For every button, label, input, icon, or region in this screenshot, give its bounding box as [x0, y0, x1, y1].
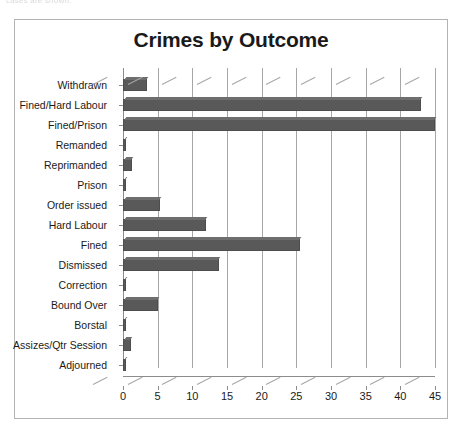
- y-tick: [119, 125, 123, 126]
- x-tick-0: [123, 386, 124, 390]
- x-tick-label-20: 20: [256, 390, 268, 402]
- bar-row: [123, 176, 435, 196]
- x-tick-15: [227, 386, 228, 390]
- y-tick: [119, 345, 123, 346]
- bar[interactable]: [123, 119, 435, 131]
- chart-title: Crimes by Outcome: [15, 28, 447, 52]
- category-label: Dismissed: [0, 259, 107, 271]
- bar-row: [123, 296, 435, 316]
- bar-row: [123, 116, 435, 136]
- category-label: Fined: [0, 239, 107, 251]
- category-label: Fined/Hard Labour: [0, 99, 107, 111]
- category-label: Correction: [0, 279, 107, 291]
- axis-depth-line: [197, 377, 212, 385]
- bar[interactable]: [123, 359, 126, 371]
- y-tick: [119, 145, 123, 146]
- category-label: Reprimanded: [0, 159, 107, 171]
- bar-row: [123, 256, 435, 276]
- y-tick: [119, 265, 123, 266]
- bar-row: [123, 336, 435, 356]
- bar-row: [123, 136, 435, 156]
- y-tick: [119, 365, 123, 366]
- bar[interactable]: [123, 99, 421, 111]
- x-tick-45: [435, 386, 436, 390]
- category-label: Hard Labour: [0, 219, 107, 231]
- y-tick: [119, 325, 123, 326]
- bar[interactable]: [123, 259, 219, 271]
- category-label: Fined/Prison: [0, 119, 107, 131]
- bar-row: [123, 196, 435, 216]
- gridline-45: [435, 68, 436, 368]
- bar-row: [123, 356, 435, 376]
- x-tick-40: [400, 386, 401, 390]
- bar[interactable]: [123, 179, 126, 191]
- bar-row: [123, 316, 435, 336]
- y-tick: [119, 185, 123, 186]
- x-tick-label-10: 10: [186, 390, 198, 402]
- bar-row: [123, 276, 435, 296]
- axis-depth-line: [301, 377, 316, 385]
- x-tick-label-35: 35: [360, 390, 372, 402]
- x-tick-label-0: 0: [120, 390, 126, 402]
- y-tick: [119, 245, 123, 246]
- bar[interactable]: [123, 219, 206, 231]
- x-tick-10: [192, 386, 193, 390]
- x-tick-label-5: 5: [155, 390, 161, 402]
- bar[interactable]: [123, 159, 132, 171]
- y-tick: [119, 225, 123, 226]
- x-tick-label-15: 15: [221, 390, 233, 402]
- x-tick-label-45: 45: [429, 390, 441, 402]
- axis-depth-line: [162, 377, 177, 385]
- bar-row: [123, 156, 435, 176]
- bar[interactable]: [123, 279, 126, 291]
- bar[interactable]: [123, 199, 160, 211]
- axis-depth-line: [231, 377, 246, 385]
- y-tick: [119, 105, 123, 106]
- bar-row: [123, 236, 435, 256]
- y-tick: [119, 165, 123, 166]
- axis-depth-line: [127, 377, 142, 385]
- plot-area: [109, 76, 435, 386]
- axis-depth-line: [266, 377, 281, 385]
- bar[interactable]: [123, 319, 126, 331]
- value-axis-labels: 051015202530354045: [109, 390, 435, 410]
- x-tick-5: [158, 386, 159, 390]
- axis-depth-line: [335, 377, 350, 385]
- y-tick: [119, 85, 123, 86]
- x-tick-25: [296, 386, 297, 390]
- category-label: Adjourned: [0, 359, 107, 371]
- x-tick-35: [366, 386, 367, 390]
- x-tick-label-25: 25: [290, 390, 302, 402]
- bar-series: [123, 76, 435, 376]
- bar[interactable]: [123, 339, 131, 351]
- axis-depth-line: [405, 377, 420, 385]
- category-axis-labels: WithdrawnFined/Hard LabourFined/PrisonRe…: [15, 76, 111, 386]
- y-tick: [119, 285, 123, 286]
- x-tick-30: [331, 386, 332, 390]
- category-label: Borstal: [0, 319, 107, 331]
- bar-row: [123, 96, 435, 116]
- category-label: Order issued: [0, 199, 107, 211]
- category-label: Bound Over: [0, 299, 107, 311]
- y-tick: [119, 205, 123, 206]
- caption-fragment: cases are shown.: [6, 0, 116, 4]
- axis-depth-line: [370, 377, 385, 385]
- category-label: Assizes/Qtr Session: [0, 339, 107, 351]
- x-tick-label-40: 40: [394, 390, 406, 402]
- x-tick-20: [262, 386, 263, 390]
- x-tick-label-30: 30: [325, 390, 337, 402]
- category-label: Remanded: [0, 139, 107, 151]
- bar[interactable]: [123, 299, 158, 311]
- y-tick: [119, 305, 123, 306]
- bar[interactable]: [123, 239, 300, 251]
- bar-row: [123, 216, 435, 236]
- category-label: Prison: [0, 179, 107, 191]
- chart-container: Crimes by Outcome WithdrawnFined/Hard La…: [14, 19, 448, 419]
- bar[interactable]: [123, 139, 126, 151]
- category-label: Withdrawn: [0, 79, 107, 91]
